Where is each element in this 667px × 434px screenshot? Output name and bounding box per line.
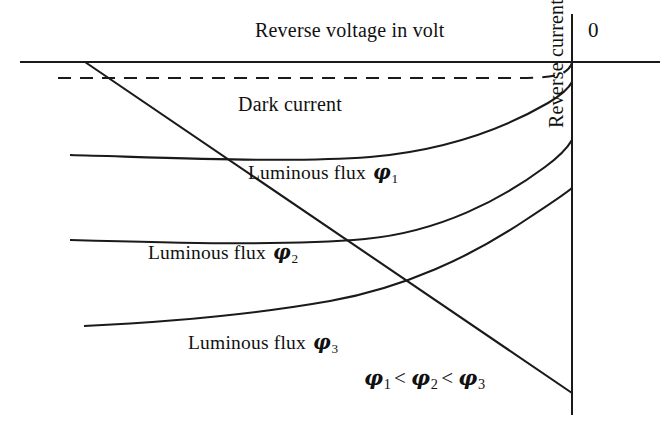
- ineq-sub-3: 3: [477, 376, 485, 392]
- flux-2-subscript: 2: [291, 251, 298, 266]
- luminous-flux-2-label: Luminous flux φ2: [148, 243, 298, 265]
- ineq-sub-1: 1: [383, 376, 391, 392]
- flux-1-prefix: Luminous flux: [248, 162, 371, 183]
- flux-2-prefix: Luminous flux: [148, 242, 271, 263]
- ineq-operator-1: <: [391, 366, 409, 390]
- ineq-sub-2: 2: [430, 376, 438, 392]
- flux-3-subscript: 3: [331, 341, 338, 356]
- dark-current-label: Dark current: [238, 94, 342, 114]
- ineq-phi-3: φ: [456, 365, 477, 390]
- flux-3-phi: φ: [311, 331, 331, 354]
- flux-inequality-annotation: φ1<φ2<φ3: [362, 367, 485, 391]
- curve-flux-2: [70, 140, 572, 243]
- flux-2-phi: φ: [271, 241, 291, 264]
- x-axis-label: Reverse voltage in volt: [255, 20, 445, 40]
- photodiode-characteristic-figure: Reverse voltage in volt 0 Dark current L…: [0, 0, 667, 434]
- y-axis-label: Reverse current in µA: [546, 0, 566, 128]
- ineq-phi-1: φ: [362, 365, 383, 390]
- flux-3-prefix: Luminous flux: [188, 332, 311, 353]
- origin-zero-label: 0: [588, 20, 599, 41]
- ineq-phi-2: φ: [409, 365, 430, 390]
- luminous-flux-3-label: Luminous flux φ3: [188, 333, 338, 355]
- flux-1-subscript: 1: [391, 171, 398, 186]
- flux-1-phi: φ: [371, 161, 391, 184]
- ineq-operator-2: <: [438, 366, 456, 390]
- curve-dark-current: [58, 63, 572, 78]
- luminous-flux-1-label: Luminous flux φ1: [248, 163, 398, 185]
